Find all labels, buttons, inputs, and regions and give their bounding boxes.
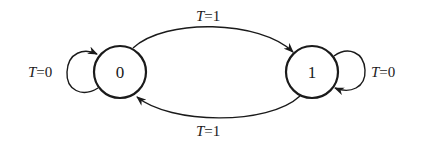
- transition-value: 0: [388, 64, 396, 80]
- transition-label-bottom: T=1: [196, 124, 220, 139]
- self-loop-label-left: T=0: [28, 65, 52, 80]
- transition-0-to-1-arrow: [133, 27, 293, 52]
- transition-value: 1: [213, 123, 221, 139]
- state-0-label: 0: [94, 64, 146, 81]
- state-diagram: 0 1 T=1 T=1 T=0 T=0: [0, 0, 429, 152]
- transition-value: 1: [213, 8, 221, 24]
- transition-1-to-0-arrow: [137, 96, 300, 118]
- state-1-label: 1: [286, 64, 338, 81]
- transition-value: 0: [45, 64, 53, 80]
- self-loop-label-right: T=0: [371, 65, 395, 80]
- transition-label-top: T=1: [196, 9, 220, 24]
